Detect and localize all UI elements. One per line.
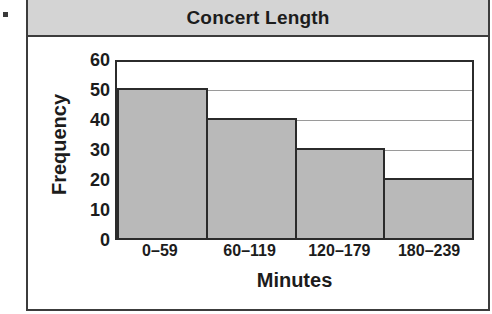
bar: [206, 118, 297, 240]
chart-card: Concert Length Frequency 6050403020100 0…: [26, 0, 490, 311]
y-axis-tick: 10: [90, 201, 110, 219]
chart-title: Concert Length: [186, 7, 329, 29]
plot-area: Frequency 6050403020100 0–5960–119120–17…: [28, 37, 488, 309]
x-axis-tick: 60–119: [205, 242, 295, 260]
y-axis-tick: 0: [100, 231, 110, 249]
x-axis-title: Minutes: [115, 269, 474, 292]
x-axis-tick: 180–239: [384, 242, 474, 260]
y-axis-tick: 20: [90, 171, 110, 189]
y-axis-tick: 30: [90, 141, 110, 159]
x-axis-tick: 120–179: [295, 242, 385, 260]
plot-frame: [115, 60, 474, 240]
y-axis-tick: 40: [90, 111, 110, 129]
bar: [383, 178, 474, 240]
bar-series: [117, 62, 472, 238]
x-axis-tick: 0–59: [115, 242, 205, 260]
chart-header: Concert Length: [28, 0, 488, 37]
list-bullet-icon: [3, 12, 8, 17]
y-axis-tick-labels: 6050403020100: [68, 37, 110, 309]
bar: [295, 148, 386, 240]
x-axis-tick-labels: 0–5960–119120–179180–239: [115, 242, 474, 260]
y-axis-tick: 50: [90, 81, 110, 99]
y-axis-tick: 60: [90, 51, 110, 69]
bar: [117, 88, 208, 240]
